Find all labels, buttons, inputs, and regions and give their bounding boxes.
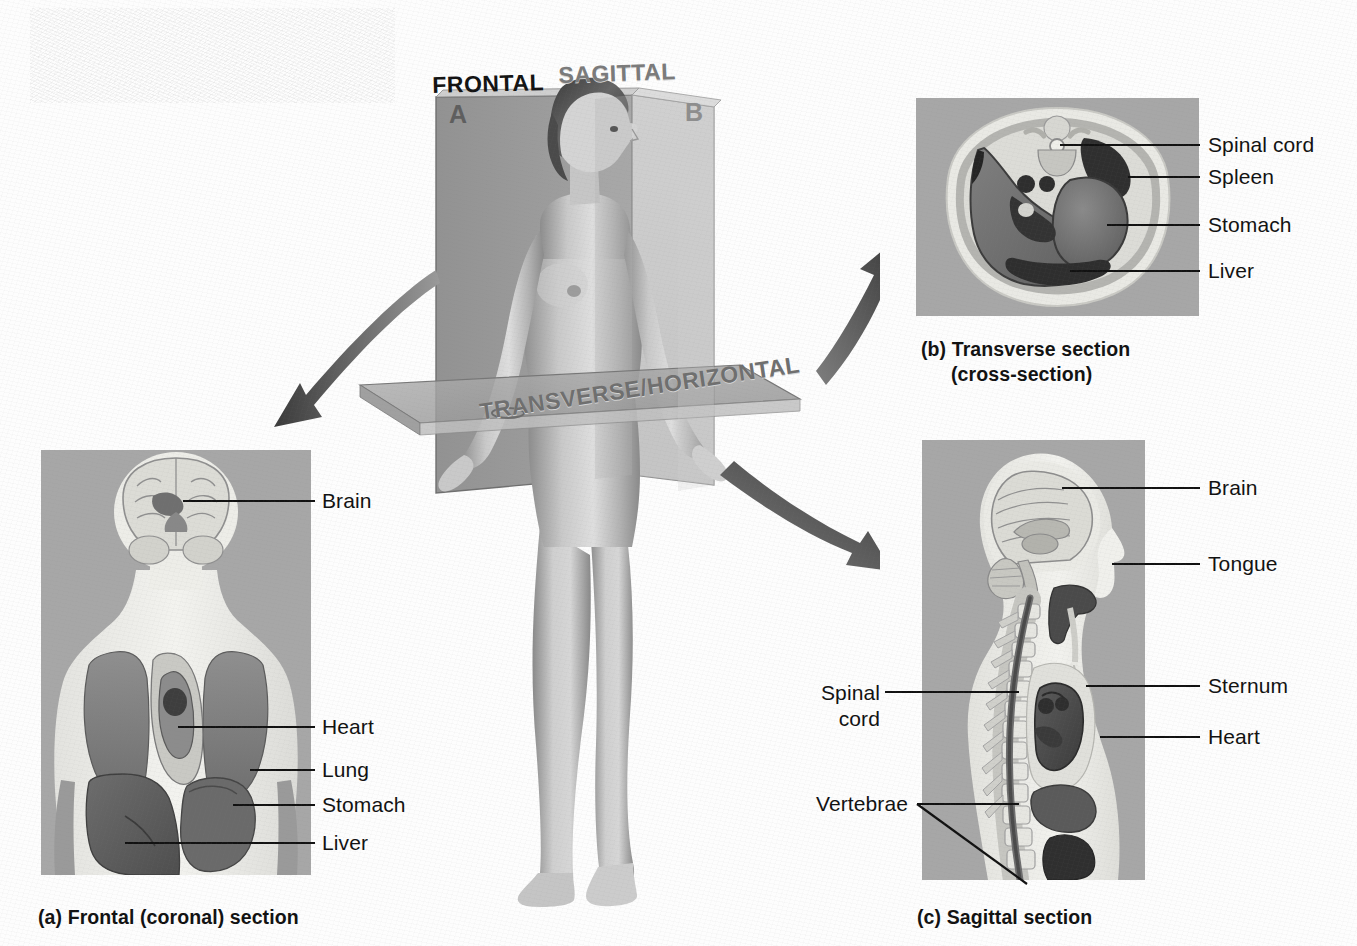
label-tongue-c: Tongue (1208, 552, 1278, 576)
figure-canvas: FRONTAL SAGITTAL TRANSVERSE/HORIZONTAL A… (0, 0, 1357, 946)
label-spinal-cord-b: Spinal cord (1208, 133, 1314, 157)
leader-heart-a (178, 726, 315, 728)
leader-spleen-b (1128, 176, 1200, 178)
label-spinal-cord-c-line2: cord (740, 707, 880, 731)
label-brain-c: Brain (1208, 476, 1258, 500)
leader-vertebrae-c (915, 780, 1105, 890)
caption-panel-c: (c) Sagittal section (917, 905, 1092, 930)
leader-brain-c (1062, 487, 1200, 489)
label-vertebrae-c: Vertebrae (740, 792, 908, 816)
label-spinal-cord-c-line1: Spinal (740, 681, 880, 705)
plane-letter-b: B (685, 98, 703, 127)
panel-a-image (41, 450, 311, 875)
plane-label-sagittal: SAGITTAL (558, 58, 676, 89)
label-spleen-b: Spleen (1208, 165, 1274, 189)
label-stomach-b: Stomach (1208, 213, 1292, 237)
leader-stomach-b (1107, 224, 1200, 226)
caption-panel-a: (a) Frontal (coronal) section (38, 905, 299, 930)
leader-spinal-cord-b (1060, 144, 1200, 146)
leader-sternum-c (1086, 685, 1200, 687)
label-liver-b: Liver (1208, 259, 1254, 283)
caption-panel-b-line1: (b) Transverse section (921, 337, 1130, 362)
label-heart-c: Heart (1208, 725, 1260, 749)
label-heart-a: Heart (322, 715, 374, 739)
label-sternum-c: Sternum (1208, 674, 1288, 698)
leader-spinal-cord-c (885, 691, 1019, 693)
plane-label-frontal: FRONTAL (432, 69, 544, 99)
arrow-to-sagittal-panel (720, 461, 880, 571)
leader-brain-a (183, 500, 315, 502)
label-liver-a: Liver (322, 831, 368, 855)
leader-liver-a (125, 842, 315, 844)
leader-liver-b (1070, 270, 1200, 272)
sagittal-wing (678, 107, 714, 491)
leader-heart-c (1100, 736, 1200, 738)
panel-b-image (916, 98, 1199, 316)
leader-stomach-a (233, 804, 315, 806)
label-brain-a: Brain (322, 489, 372, 513)
arrow-to-transverse-panel (816, 241, 880, 385)
leader-lung-a (250, 769, 315, 771)
label-lung-a: Lung (322, 758, 369, 782)
caption-panel-b-line2: (cross-section) (951, 362, 1092, 387)
plane-letter-a: A (449, 100, 467, 129)
leader-tongue-c (1112, 563, 1200, 565)
label-stomach-a: Stomach (322, 793, 406, 817)
